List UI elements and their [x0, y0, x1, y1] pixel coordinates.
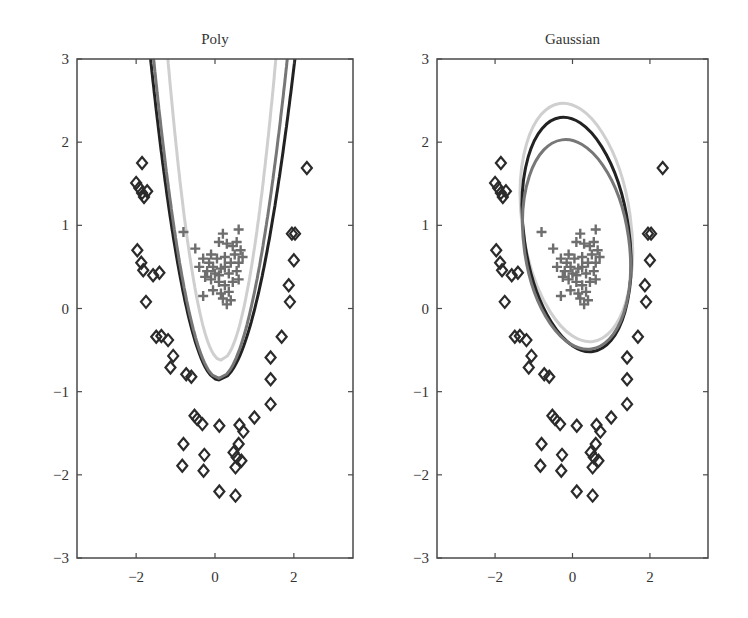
cross-marker — [198, 291, 208, 301]
diamond-marker — [277, 331, 287, 343]
y-tick-label: 0 — [62, 301, 70, 317]
plot-area — [490, 96, 668, 502]
diamond-marker — [557, 449, 567, 461]
axes-frame — [437, 59, 708, 558]
diamond-marker — [535, 460, 545, 472]
diamond-marker — [526, 350, 536, 362]
diamond-marker — [231, 490, 241, 502]
y-tick-label: −2 — [53, 467, 69, 483]
axes-frame — [77, 59, 353, 558]
diamond-marker — [199, 465, 209, 477]
diamond-marker — [622, 398, 632, 410]
gaussian-panel: Gaussian−202−3−2−10123 — [413, 31, 708, 585]
diamond-marker — [572, 485, 582, 497]
cross-marker — [548, 244, 558, 254]
y-tick-label: 1 — [62, 217, 70, 233]
y-tick-label: 3 — [62, 51, 70, 67]
diamond-marker — [266, 373, 276, 385]
diamond-marker — [132, 244, 142, 256]
diamond-marker — [266, 398, 276, 410]
diamond-marker — [572, 420, 582, 432]
plot-area — [131, 34, 312, 502]
diamond-marker — [588, 490, 598, 502]
x-tick-label: 2 — [646, 569, 654, 585]
diamond-marker — [214, 485, 224, 497]
diamond-marker — [141, 296, 151, 308]
diamond-marker — [285, 296, 295, 308]
diamond-marker — [622, 373, 632, 385]
diamond-marker — [633, 331, 643, 343]
diamond-marker — [491, 244, 501, 256]
diamond-marker — [168, 350, 178, 362]
cross-marker — [537, 227, 547, 237]
cross-marker — [591, 224, 601, 234]
boundary-light-curve — [166, 34, 278, 360]
x-tick-label: 0 — [211, 569, 219, 585]
diamond-marker — [537, 438, 547, 450]
diamond-marker — [165, 362, 175, 374]
y-tick-label: 2 — [422, 134, 430, 150]
diamond-marker — [214, 420, 224, 432]
y-tick-label: −2 — [413, 467, 429, 483]
y-tick-label: −3 — [53, 550, 69, 566]
diamond-marker — [177, 460, 187, 472]
diamond-marker — [622, 352, 632, 364]
cross-marker — [190, 244, 200, 254]
figure: Poly−202−3−2−10123 Gaussian−202−3−2−1012… — [0, 0, 748, 618]
cross-marker — [220, 252, 230, 262]
diamond-marker — [289, 254, 299, 266]
diamond-marker — [641, 296, 651, 308]
diamond-marker — [137, 157, 147, 169]
diamond-marker — [606, 411, 616, 423]
cross-marker — [577, 252, 587, 262]
chart-title: Poly — [201, 31, 229, 47]
cross-marker — [556, 291, 566, 301]
y-tick-label: −3 — [413, 550, 429, 566]
diamond-marker — [178, 438, 188, 450]
diamond-marker — [556, 465, 566, 477]
y-tick-label: 2 — [62, 134, 70, 150]
diamond-marker — [640, 279, 650, 291]
diamond-marker — [199, 449, 209, 461]
y-tick-label: −1 — [53, 384, 69, 400]
diamond-marker — [496, 157, 506, 169]
diamond-marker — [163, 334, 173, 346]
diamond-marker — [658, 162, 668, 174]
cross-marker — [234, 224, 244, 234]
diamond-marker — [266, 352, 276, 364]
y-tick-label: 1 — [422, 217, 430, 233]
y-tick-label: −1 — [413, 384, 429, 400]
chart-title: Gaussian — [545, 31, 600, 47]
diamond-marker — [284, 279, 294, 291]
diamond-marker — [302, 162, 312, 174]
x-tick-label: 2 — [290, 569, 298, 585]
y-tick-label: 0 — [422, 301, 430, 317]
diamond-marker — [500, 296, 510, 308]
x-tick-label: −2 — [487, 569, 503, 585]
diamond-marker — [521, 334, 531, 346]
poly-panel: Poly−202−3−2−10123 — [53, 31, 353, 585]
diamond-marker — [524, 362, 534, 374]
x-tick-label: 0 — [569, 569, 577, 585]
y-tick-label: 3 — [422, 51, 430, 67]
diamond-marker — [249, 411, 259, 423]
diamond-marker — [645, 254, 655, 266]
boundary-mid-curve — [151, 34, 290, 378]
x-tick-label: −2 — [128, 569, 144, 585]
